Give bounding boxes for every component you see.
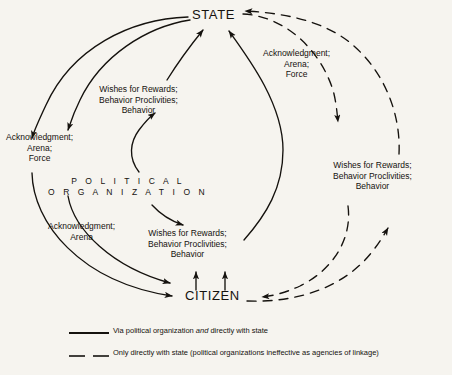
node-state: STATE bbox=[192, 7, 235, 22]
edge-label-acknowledgment-lower-left: Acknowledgment; Arena bbox=[48, 221, 115, 242]
label-line: Force bbox=[6, 153, 73, 164]
legend-text-part: directly with state bbox=[208, 326, 268, 335]
label-line: Arena; bbox=[6, 143, 73, 154]
node-political-organization: P O L I T I C A L O R G A N I Z A T I O … bbox=[48, 176, 208, 198]
legend-text-part: Only directly with state (political orga… bbox=[113, 348, 379, 357]
legend-text-dashed: Only directly with state (political orga… bbox=[113, 348, 379, 358]
legend: Via political organization and directly … bbox=[0, 326, 452, 370]
edge-citizen-to-state-dashed-upper bbox=[245, 11, 399, 154]
label-line: Wishes for Rewards; bbox=[148, 228, 227, 239]
label-line: Acknowledgment; bbox=[6, 132, 73, 143]
legend-row-dashed: Only directly with state (political orga… bbox=[0, 348, 452, 370]
label-line: Behavior Proclivities; bbox=[99, 95, 178, 106]
edge-label-wishes-lower: Wishes for Rewards; Behavior Proclivitie… bbox=[148, 228, 227, 260]
legend-text-emphasis: and bbox=[196, 326, 209, 335]
label-line: Behavior Proclivities; bbox=[148, 239, 227, 250]
political-organization-line-2: O R G A N I Z A T I O N bbox=[48, 187, 208, 198]
edge-label-wishes-upper: Wishes for Rewards; Behavior Proclivitie… bbox=[99, 84, 178, 116]
political-organization-line-1: P O L I T I C A L bbox=[48, 176, 208, 187]
edge-wishes-upper-to-state bbox=[167, 30, 203, 80]
legend-row-solid: Via political organization and directly … bbox=[0, 326, 452, 348]
edge-label-wishes-right: Wishes for Rewards; Behavior Proclivitie… bbox=[333, 160, 412, 192]
edge-political-to-state bbox=[131, 113, 155, 172]
node-citizen: CITIZEN bbox=[185, 288, 240, 303]
label-line: Force bbox=[263, 69, 330, 80]
label-line: Behavior bbox=[148, 249, 227, 260]
edge-label-acknowledgment-left: Acknowledgment; Arena; Force bbox=[6, 132, 73, 164]
label-line: Acknowledgment; bbox=[263, 48, 330, 59]
legend-text-solid: Via political organization and directly … bbox=[113, 326, 268, 336]
legend-text-part: Via political organization bbox=[113, 326, 196, 335]
label-line: Wishes for Rewards; bbox=[333, 160, 412, 171]
edge-label-acknowledgment-right: Acknowledgment; Arena; Force bbox=[263, 48, 330, 80]
label-line: Arena; bbox=[263, 59, 330, 70]
label-line: Arena bbox=[48, 232, 115, 243]
label-line: Acknowledgment; bbox=[48, 221, 115, 232]
linkage-diagram-figure: STATE CITIZEN P O L I T I C A L O R G A … bbox=[0, 0, 452, 375]
label-line: Wishes for Rewards; bbox=[99, 84, 178, 95]
edge-state-to-citizen-dashed-inner-lower bbox=[262, 206, 349, 297]
edge-state-to-political-outer bbox=[32, 17, 188, 138]
label-line: Behavior Proclivities; bbox=[333, 171, 412, 182]
edge-citizen-to-state-dashed-lower bbox=[247, 228, 388, 301]
label-line: Behavior bbox=[333, 181, 412, 192]
label-line: Behavior bbox=[99, 105, 178, 116]
edge-political-to-citizen-short bbox=[152, 205, 183, 225]
